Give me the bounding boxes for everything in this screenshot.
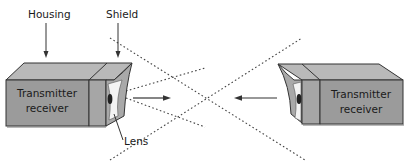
shield-pointer-arrow	[116, 23, 121, 58]
right-unit-label-line1: Transmitter	[330, 88, 392, 100]
lens-label: Lens	[124, 135, 148, 147]
left-housing-top	[6, 63, 132, 80]
housing-pointer-arrow	[44, 23, 49, 58]
beam-arrow-right	[133, 95, 171, 101]
beam-line-left-lower	[126, 98, 205, 127]
diagram-canvas: Transmitter receiver Transmitter receive…	[0, 0, 411, 168]
right-transmitter-receiver-unit: Transmitter receiver	[276, 64, 404, 125]
shield-label: Shield	[106, 8, 138, 20]
right-housing-top	[278, 64, 403, 80]
left-unit-label-line2: receiver	[26, 102, 69, 114]
left-transmitter-receiver-unit: Transmitter receiver	[6, 63, 132, 127]
right-shield-front	[302, 80, 320, 124]
left-lens-icon	[108, 94, 113, 104]
right-housing-front	[320, 80, 403, 124]
right-unit-label-line2: receiver	[340, 103, 383, 115]
left-shield-front	[89, 80, 106, 126]
beam-line-left-upper	[126, 68, 205, 91]
left-unit-label-line1: Transmitter	[16, 87, 78, 99]
beam-arrow-left	[234, 95, 277, 101]
housing-label: Housing	[28, 8, 71, 20]
right-lens-icon	[297, 94, 302, 104]
